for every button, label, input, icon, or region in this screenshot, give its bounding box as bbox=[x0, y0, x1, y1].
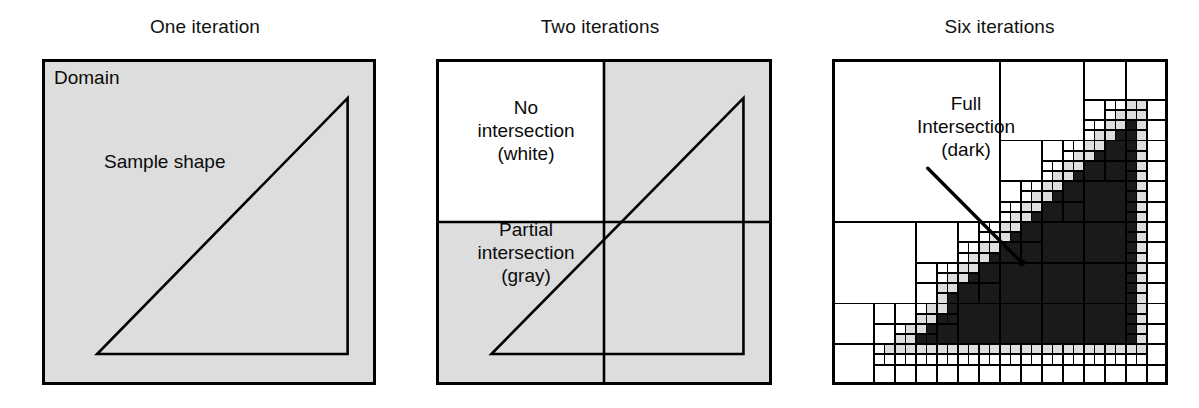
quadtree-cell-white bbox=[937, 273, 948, 283]
quadtree-cell-white bbox=[958, 365, 979, 385]
quadtree-cell-white bbox=[1000, 354, 1011, 364]
quadtree-cell-gray bbox=[1137, 344, 1148, 354]
quadtree-cell-white bbox=[1147, 222, 1168, 242]
quadtree-cell-dark bbox=[1126, 293, 1137, 303]
quadtree-cell-gray bbox=[1116, 344, 1127, 354]
quadtree-cell-dark bbox=[1032, 212, 1043, 222]
quadtree-cell-white bbox=[1063, 365, 1084, 385]
quadtree-cell-gray bbox=[1137, 212, 1148, 222]
quadtree-cell-white bbox=[1042, 365, 1063, 385]
quadtree-cell-gray bbox=[1137, 171, 1148, 181]
quadtree-cell-dark bbox=[990, 253, 1001, 263]
quadtree-cell-white bbox=[1147, 181, 1168, 201]
quadtree-cell-white bbox=[874, 304, 895, 324]
quadtree-cell-dark bbox=[1126, 120, 1137, 130]
quadtree-cell-gray bbox=[1137, 334, 1148, 344]
quadtree-cell-dark bbox=[1053, 191, 1064, 201]
quadtree-cell-gray bbox=[1126, 344, 1137, 354]
quadtree-cell-gray bbox=[969, 253, 980, 263]
quadtree-cell-gray bbox=[1137, 314, 1148, 324]
quadtree-cell-gray bbox=[1137, 181, 1148, 191]
quadtree-cell-white bbox=[1147, 324, 1168, 344]
quadtree-cell-white bbox=[937, 263, 948, 273]
quadtree-cell-gray bbox=[906, 324, 917, 334]
quadtree-cell-dark bbox=[979, 263, 1000, 283]
quadtree-cell-gray bbox=[1137, 304, 1148, 314]
quadtree-cell-gray bbox=[1105, 120, 1116, 130]
quadtree-cell-white bbox=[958, 242, 969, 252]
quadtree-cell-gray bbox=[1053, 171, 1064, 181]
quadtree-cell-dark bbox=[1126, 161, 1137, 171]
quadtree-cell-gray bbox=[1095, 141, 1106, 151]
quadtree-cell-dark bbox=[927, 334, 938, 344]
quadtree-cell-gray bbox=[1116, 110, 1127, 120]
quadtree-cell-gray bbox=[948, 283, 959, 293]
quadtree-cell-white bbox=[1126, 59, 1168, 100]
quadtree-cell-gray bbox=[1137, 161, 1148, 171]
quadtree-cell-gray bbox=[1000, 344, 1011, 354]
quadtree-cell-white bbox=[1042, 161, 1053, 171]
quadtree-cell-white bbox=[1011, 354, 1022, 364]
quadtree-cell-dark bbox=[1000, 263, 1042, 304]
sample-shape-label: Sample shape bbox=[104, 150, 225, 173]
quadtree-cell-dark bbox=[1126, 171, 1137, 181]
quadtree-cell-gray bbox=[1116, 120, 1127, 130]
quadtree-cell-dark bbox=[1084, 181, 1126, 222]
quadtree-cell-gray bbox=[1021, 344, 1032, 354]
quadtree-cell-gray bbox=[1074, 344, 1085, 354]
quadtree-cell-dark bbox=[1126, 141, 1137, 151]
quadtree-cell-white bbox=[1000, 212, 1011, 222]
quadtree-cell-white bbox=[874, 354, 885, 364]
quadtree-cell-gray bbox=[1137, 232, 1148, 242]
no-intersection-label: No intersection (white) bbox=[442, 96, 610, 165]
quadtree-cell-white bbox=[1063, 151, 1074, 161]
quadtree-cell-dark bbox=[1126, 151, 1137, 161]
quadtree-cell-dark bbox=[1126, 202, 1137, 212]
quadtree-cell-gray bbox=[1095, 344, 1106, 354]
quadtree-cell-white bbox=[1147, 344, 1168, 364]
quadtree-cell-dark bbox=[916, 334, 927, 344]
quadtree-cell-dark bbox=[1063, 181, 1084, 201]
quadtree-cell-dark bbox=[1095, 151, 1106, 161]
quadtree-cell-white bbox=[1095, 354, 1106, 364]
quadtree-cell-gray bbox=[937, 293, 948, 303]
quadtree-cell-white bbox=[1063, 141, 1074, 151]
quadtree-cell-white bbox=[1021, 191, 1032, 201]
quadtree-cell-white bbox=[990, 354, 1001, 364]
quadtree-cell-white bbox=[1147, 365, 1168, 385]
quadtree-cell-dark bbox=[1126, 314, 1137, 324]
quadtree-cell-gray bbox=[1074, 151, 1085, 161]
quadtree-cell-white bbox=[1116, 100, 1127, 110]
quadtree-cell-white bbox=[874, 324, 895, 344]
quadtree-cell-white bbox=[1074, 141, 1085, 151]
callout-leader-dot bbox=[1018, 259, 1025, 266]
quadtree-cell-gray bbox=[948, 344, 959, 354]
quadtree-cell-white bbox=[1105, 100, 1116, 110]
quadtree-cell-white bbox=[1053, 161, 1064, 171]
quadtree-cell-gray bbox=[948, 273, 959, 283]
quadtree-cell-gray bbox=[1137, 100, 1148, 110]
quadtree-cell-gray bbox=[1021, 212, 1032, 222]
quadtree-cell-white bbox=[1147, 141, 1168, 161]
quadtree-cell-dark bbox=[1126, 304, 1137, 314]
quadtree-cell-white bbox=[916, 222, 958, 263]
quadtree-cell-dark bbox=[1084, 263, 1126, 304]
quadtree-cell-dark bbox=[1105, 141, 1126, 161]
quadtree-cell-white bbox=[1105, 110, 1116, 120]
quadtree-cell-white bbox=[1032, 181, 1043, 191]
quadtree-cell-gray bbox=[1137, 242, 1148, 252]
quadtree-cell-gray bbox=[1042, 344, 1053, 354]
quadtree-cell-white bbox=[895, 324, 906, 334]
quadtree-cell-dark bbox=[1021, 242, 1042, 262]
quadtree-cell-gray bbox=[1011, 212, 1022, 222]
quadtree-cell-gray bbox=[906, 344, 917, 354]
quadtree-cell-gray bbox=[937, 283, 948, 293]
quadtree-cell-gray bbox=[1137, 130, 1148, 140]
quadtree-cell-gray bbox=[979, 344, 990, 354]
quadtree-cell-gray bbox=[885, 344, 896, 354]
quadtree-figure: One iteration Domain Sample shape Two it… bbox=[0, 0, 1199, 408]
quadtree-cell-dark bbox=[958, 283, 979, 303]
quadtree-cell-dark bbox=[1042, 222, 1084, 263]
quadtree-cell-gray bbox=[1137, 191, 1148, 201]
quadtree-cell-white bbox=[1147, 304, 1168, 324]
